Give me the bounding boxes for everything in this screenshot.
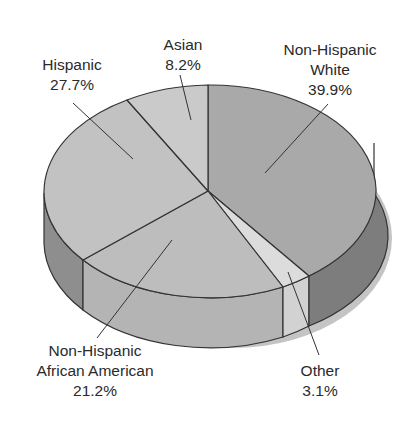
pie-top — [44, 85, 376, 298]
label-other-value: 3.1% — [290, 381, 350, 401]
label-hispanic-line1: Hispanic — [32, 55, 112, 75]
label-white-line2: White — [270, 60, 390, 80]
label-other-line1: Other — [290, 361, 350, 381]
label-other: Other 3.1% — [290, 361, 350, 401]
label-white-line1: Non-Hispanic — [270, 40, 390, 60]
label-aa-line1: Non-Hispanic — [15, 341, 175, 361]
label-asian-value: 8.2% — [148, 55, 218, 75]
label-hispanic-value: 27.7% — [32, 75, 112, 95]
label-aa-value: 21.2% — [15, 381, 175, 401]
label-african-american: Non-Hispanic African American 21.2% — [15, 341, 175, 401]
label-asian-line1: Asian — [148, 35, 218, 55]
label-asian: Asian 8.2% — [148, 35, 218, 75]
label-hispanic: Hispanic 27.7% — [32, 55, 112, 95]
label-aa-line2: African American — [15, 361, 175, 381]
label-white-value: 39.9% — [270, 80, 390, 100]
label-non-hispanic-white: Non-Hispanic White 39.9% — [270, 40, 390, 100]
